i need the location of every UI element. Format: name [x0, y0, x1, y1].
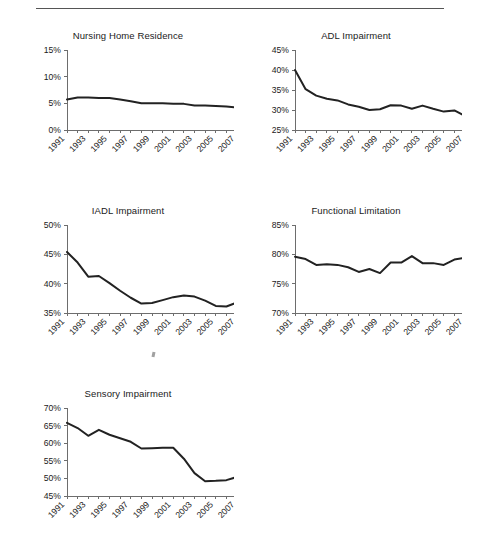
- chart-title-nursing-home-residence: Nursing Home Residence: [22, 30, 234, 41]
- x-tick-label: 1995: [88, 133, 109, 154]
- chart-title-iadl-impairment: IADL Impairment: [22, 205, 234, 216]
- x-tick-label: 2007: [444, 316, 462, 337]
- chart-plot-adl-impairment: 25%30%35%40%45%1991199319951997199920012…: [250, 44, 462, 180]
- x-tick-label: 2005: [195, 316, 216, 337]
- x-tick-label: 1995: [316, 316, 337, 337]
- x-tick-label: 1999: [359, 316, 380, 337]
- chart-panel-nursing-home-residence: Nursing Home Residence0%5%10%15%19911993…: [22, 30, 234, 180]
- series-line-functional-limitation: [295, 256, 462, 273]
- x-tick-label: 1993: [295, 133, 316, 154]
- figure-canvas: Nursing Home Residence0%5%10%15%19911993…: [0, 0, 478, 540]
- x-tick-label: 1993: [295, 316, 316, 337]
- x-tick-label: 2001: [380, 133, 401, 154]
- header-rule: [36, 8, 444, 9]
- x-tick-label: 2007: [216, 133, 234, 154]
- y-tick-label: 65%: [44, 421, 62, 431]
- x-tick-label: 1999: [359, 133, 380, 154]
- chart-title-functional-limitation: Functional Limitation: [250, 205, 462, 216]
- y-tick-label: 10%: [44, 72, 62, 82]
- chart-title-sensory-impairment: Sensory Impairment: [22, 388, 234, 399]
- x-tick-label: 1993: [67, 316, 88, 337]
- x-tick-label: 2005: [423, 133, 444, 154]
- chart-plot-nursing-home-residence: 0%5%10%15%199119931995199719992001200320…: [22, 44, 234, 180]
- x-tick-label: 2001: [152, 133, 173, 154]
- x-tick-label: 2003: [173, 499, 194, 520]
- x-tick-label: 1997: [110, 316, 131, 337]
- x-tick-label: 1991: [46, 316, 67, 337]
- y-tick-label: 5%: [49, 98, 62, 108]
- x-tick-label: 1995: [316, 133, 337, 154]
- x-tick-label: 1995: [88, 316, 109, 337]
- series-line-nursing-home-residence: [67, 97, 234, 107]
- x-tick-label: 1997: [110, 499, 131, 520]
- x-tick-label: 2007: [216, 316, 234, 337]
- x-tick-label: 2003: [401, 133, 422, 154]
- x-tick-label: 1999: [131, 133, 152, 154]
- x-tick-label: 2005: [195, 133, 216, 154]
- x-tick-label: 2005: [195, 499, 216, 520]
- x-tick-label: 2001: [152, 499, 173, 520]
- x-tick-label: 2003: [401, 316, 422, 337]
- y-tick-label: 60%: [44, 438, 62, 448]
- x-tick-label: 2007: [216, 499, 234, 520]
- x-tick-label: 1997: [338, 133, 359, 154]
- x-tick-label: 2003: [173, 316, 194, 337]
- x-tick-label: 1999: [131, 499, 152, 520]
- y-tick-label: 40%: [44, 279, 62, 289]
- x-tick-label: 1995: [88, 499, 109, 520]
- y-tick-label: 50%: [44, 220, 62, 230]
- chart-plot-functional-limitation: 70%75%80%85%1991199319951997199920012003…: [250, 219, 462, 360]
- y-tick-label: 75%: [272, 279, 290, 289]
- y-tick-label: 85%: [272, 220, 290, 230]
- chart-plot-iadl-impairment: 35%40%45%50%1991199319951997199920012003…: [22, 219, 234, 360]
- y-tick-label: 40%: [272, 65, 290, 75]
- x-tick-label: 1993: [67, 499, 88, 520]
- y-tick-label: 70%: [44, 403, 62, 413]
- x-tick-label: 2003: [173, 133, 194, 154]
- x-tick-label: 2001: [380, 316, 401, 337]
- x-tick-label: 1999: [131, 316, 152, 337]
- y-tick-label: 35%: [272, 85, 290, 95]
- x-tick-label: 1991: [274, 316, 295, 337]
- series-line-sensory-impairment: [67, 423, 234, 481]
- x-tick-label: 1997: [110, 133, 131, 154]
- x-tick-label: 1991: [46, 133, 67, 154]
- chart-panel-iadl-impairment: IADL Impairment35%40%45%50%1991199319951…: [22, 205, 234, 360]
- x-tick-label: 1991: [46, 499, 67, 520]
- series-line-adl-impairment: [295, 70, 462, 116]
- chart-title-adl-impairment: ADL Impairment: [250, 30, 462, 41]
- x-tick-label: 1993: [67, 133, 88, 154]
- y-tick-label: 50%: [44, 473, 62, 483]
- y-tick-label: 45%: [272, 45, 290, 55]
- chart-plot-sensory-impairment: 45%50%55%60%65%70%1991199319951997199920…: [22, 402, 234, 540]
- x-tick-label: 2005: [423, 316, 444, 337]
- chart-panel-functional-limitation: Functional Limitation70%75%80%85%1991199…: [250, 205, 462, 360]
- y-tick-label: 80%: [272, 249, 290, 259]
- y-tick-label: 15%: [44, 45, 62, 55]
- series-line-iadl-impairment: [67, 252, 234, 307]
- x-tick-label: 2001: [152, 316, 173, 337]
- x-tick-label: 1991: [274, 133, 295, 154]
- chart-panel-adl-impairment: ADL Impairment25%30%35%40%45%19911993199…: [250, 30, 462, 180]
- chart-panel-sensory-impairment: Sensory Impairment45%50%55%60%65%70%1991…: [22, 388, 234, 540]
- x-tick-label: 2007: [444, 133, 462, 154]
- y-tick-label: 55%: [44, 456, 62, 466]
- y-tick-label: 45%: [44, 249, 62, 259]
- x-tick-label: 1997: [338, 316, 359, 337]
- y-tick-label: 30%: [272, 105, 290, 115]
